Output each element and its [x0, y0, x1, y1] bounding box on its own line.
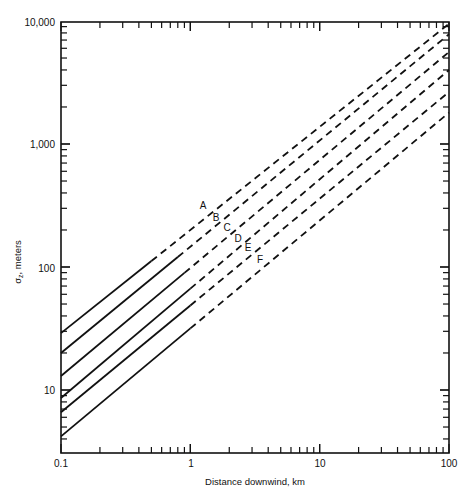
stability-curves: [61, 24, 449, 437]
curve-E: [61, 92, 449, 412]
curve-C: [61, 52, 449, 376]
curve-label-A: A: [200, 200, 207, 211]
x-tick-100: 100: [441, 458, 458, 469]
curve-A: [61, 24, 449, 333]
svg-text:σz, meters: σz, meters: [12, 240, 24, 284]
y-tick-1000: 1,000: [30, 139, 55, 150]
y-tick-10000: 10,000: [24, 17, 55, 28]
sigma-z-chart: ABCDEF 0.1 1 10 100 10 100 1,000 10,000 …: [0, 0, 473, 493]
x-axis-title: Distance downwind, km: [205, 476, 305, 487]
y-tick-10: 10: [44, 385, 56, 396]
curve-label-F: F: [257, 254, 263, 265]
x-tick-10: 10: [314, 458, 326, 469]
curve-labels: ABCDEF: [200, 200, 263, 265]
x-tick-0.1: 0.1: [54, 458, 68, 469]
curve-label-C: C: [223, 222, 230, 233]
curve-label-D: D: [234, 233, 241, 244]
curve-label-B: B: [213, 212, 220, 223]
curve-F: [61, 113, 449, 437]
curve-label-E: E: [245, 242, 252, 253]
curve-D: [61, 70, 449, 398]
y-axis-title: σz, meters: [12, 240, 24, 284]
y-tick-100: 100: [38, 263, 55, 274]
curve-B: [61, 34, 449, 353]
x-tick-1: 1: [188, 458, 194, 469]
